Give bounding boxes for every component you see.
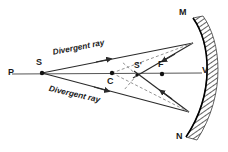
label-M: M [179,7,187,17]
construction-lines [112,43,193,112]
dashed-line-C-to-N [112,73,189,112]
point-dot-F [160,72,164,76]
point-dot-C [110,71,114,75]
label-V: V [202,65,208,75]
concave-mirror [186,16,218,140]
ray-diagram-canvas [0,0,228,152]
concave-mirror-diagram: P S C S' F V M N Divergent ray Divergent… [0,0,228,152]
label-P: P [8,67,14,77]
reflected-ray-upper-arrow [163,54,175,61]
label-S-prime: S' [134,60,142,70]
label-S: S [36,57,42,67]
label-N: N [176,131,183,141]
dashed-line-S-prime-extension-lower [124,75,137,90]
label-F: F [158,59,164,69]
label-C: C [107,76,114,86]
incident-ray-lower-arrow [94,87,108,91]
point-dot-S [40,71,44,75]
reflected-ray-lower-arrow [161,91,172,99]
point-dot-S-prime [135,73,138,76]
dashed-line-C-to-M [112,43,193,73]
